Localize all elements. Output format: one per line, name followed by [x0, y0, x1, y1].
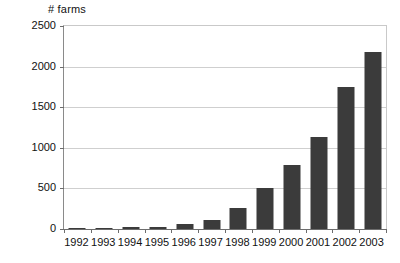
x-tick-label: 1998 [225, 236, 249, 248]
y-tick-label: 2000 [32, 60, 56, 72]
bar-slot [118, 26, 145, 229]
bar-slot [306, 26, 333, 229]
y-axis-title: # farms [48, 3, 86, 15]
bar-2002 [337, 87, 354, 229]
x-tick-mark [252, 229, 253, 233]
bar-slot [145, 26, 172, 229]
y-tick-label: 1000 [32, 141, 56, 153]
bar-1994 [123, 227, 140, 229]
bar-slot [252, 26, 279, 229]
bar-chart: # farms 05001000150020002500 19921993199… [0, 0, 400, 263]
bars-layer [64, 26, 386, 229]
x-tick-mark [306, 229, 307, 233]
y-tick-label: 2500 [32, 19, 56, 31]
x-tick-label: 1994 [118, 236, 142, 248]
x-tick-mark [332, 229, 333, 233]
bar-2003 [364, 52, 381, 229]
x-tick-mark [386, 229, 387, 233]
bar-slot [279, 26, 306, 229]
x-tick-mark [359, 229, 360, 233]
bar-1999 [257, 188, 274, 229]
x-tick-mark [225, 229, 226, 233]
x-tick-label: 1992 [64, 236, 88, 248]
bar-2000 [284, 165, 301, 229]
x-tick-mark [145, 229, 146, 233]
x-tick-label: 1995 [145, 236, 169, 248]
x-tick-mark [91, 229, 92, 233]
x-tick-label: 2003 [359, 236, 383, 248]
bar-slot [359, 26, 386, 229]
bar-1998 [230, 208, 247, 229]
x-tick-mark [198, 229, 199, 233]
x-tick-mark [64, 229, 65, 233]
bar-slot [225, 26, 252, 229]
y-tick-label: 500 [38, 181, 56, 193]
plot-area [63, 25, 387, 230]
x-tick-mark [171, 229, 172, 233]
bar-slot [91, 26, 118, 229]
bar-slot [64, 26, 91, 229]
bar-2001 [310, 137, 327, 229]
bar-slot [171, 26, 198, 229]
x-tick-mark [279, 229, 280, 233]
bar-1993 [96, 228, 113, 230]
x-tick-label: 1997 [198, 236, 222, 248]
bar-1996 [176, 224, 193, 229]
x-tick-label: 2000 [279, 236, 303, 248]
bar-slot [332, 26, 359, 229]
bar-1992 [69, 228, 86, 230]
x-tick-label: 1996 [172, 236, 196, 248]
x-tick-label: 1993 [91, 236, 115, 248]
x-tick-label: 2001 [306, 236, 330, 248]
x-tick-mark [118, 229, 119, 233]
bar-1997 [203, 220, 220, 229]
x-tick-label: 1999 [252, 236, 276, 248]
x-tick-label: 2002 [333, 236, 357, 248]
bar-slot [198, 26, 225, 229]
y-tick-label: 0 [50, 222, 56, 234]
bar-1995 [149, 227, 166, 229]
y-tick-label: 1500 [32, 100, 56, 112]
